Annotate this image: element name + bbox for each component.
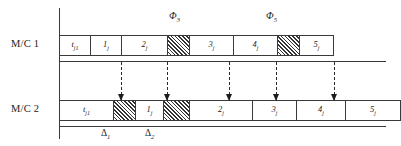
mc1-cell-4j: 4j (234, 36, 278, 55)
mc1-cell-2j-text: 2j (142, 40, 148, 51)
delta-1-label: Δ1 (101, 128, 110, 140)
mc2-cell-1j-text: 1j (147, 105, 153, 116)
machine-2-label: M/C 2 (11, 103, 39, 114)
mc1-cell-1j: 1j (91, 36, 122, 55)
mc1-cell-2j: 2j (122, 36, 168, 55)
mc1-cell-5j-text: 5j (314, 40, 320, 51)
mc2-cell-4j-text: 4j (318, 105, 324, 116)
machine-1-label: M/C 1 (11, 38, 39, 49)
mc1-cell-5j: 5j (300, 36, 334, 55)
mc2-cell-4j: 4j (297, 101, 346, 120)
dependency-arrow-2-head (164, 94, 170, 101)
machine-2-timeline: tj11j2j3j4j5j (59, 100, 401, 121)
mc2-cell-3j: 3j (253, 101, 297, 120)
mc2-cell-2j: 2j (190, 101, 253, 120)
machine-1-timeline: tj11j2j3j4j5j (59, 35, 334, 56)
mc1-cell-3j-text: 3j (209, 40, 215, 51)
mc2-cell-tj1-text: tj1 (83, 105, 90, 116)
mc2-cell-1j: 1j (136, 101, 164, 120)
mc2-block-delta1 (114, 101, 136, 120)
delta-2-label: Δ2 (145, 128, 154, 140)
mc1-block-phi5 (278, 36, 300, 55)
mc1-cell-1j-text: 1j (103, 40, 109, 51)
mc1-cell-tj1: tj1 (60, 36, 91, 55)
dependency-arrow-4-head (273, 94, 279, 101)
mc1-cell-4j-text: 4j (253, 40, 259, 51)
mc2-block-delta2 (164, 101, 190, 120)
mc1-cell-3j: 3j (190, 36, 234, 55)
dependency-arrow-3-head (226, 94, 232, 101)
machine-1-baseline (59, 61, 386, 62)
machine-2-baseline (59, 126, 386, 127)
mc2-cell-5j-text: 5j (370, 105, 376, 116)
mc2-cell-5j: 5j (346, 101, 401, 120)
mc2-cell-3j-text: 3j (272, 105, 278, 116)
mc1-block-phi3 (168, 36, 190, 55)
phi-5-label: Φ5 (266, 10, 277, 23)
phi-3-label: Φ3 (169, 10, 180, 23)
mc1-cell-tj1-text: tj1 (71, 40, 78, 51)
mc2-cell-tj1: tj1 (60, 101, 114, 120)
dependency-arrow-1-head (118, 94, 124, 101)
dependency-arrow-5-head (331, 94, 337, 101)
mc2-cell-2j-text: 2j (218, 105, 224, 116)
